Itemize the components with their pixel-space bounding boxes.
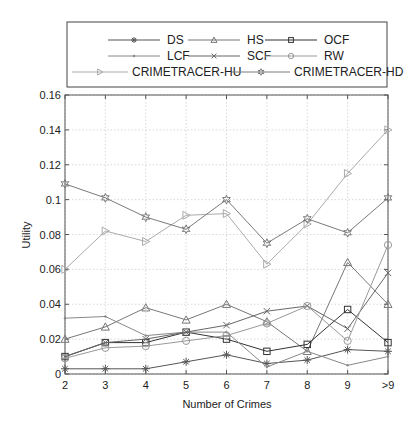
y-tick-label: 0.16	[40, 89, 61, 101]
legend-label: RW	[324, 49, 344, 63]
legend-label: HS	[247, 33, 264, 47]
x-tick-label: 2	[62, 379, 68, 391]
x-tick-label: 5	[183, 379, 189, 391]
chart-legend: DSHSOCFLCFSCFRWCRIMETRACER-HUCRIMETRACER…	[67, 22, 404, 87]
axes: 00.020.040.060.080.10.120.140.1623456789…	[40, 89, 395, 391]
y-tick-label: 0.04	[40, 298, 61, 310]
y-tick-label: 0.14	[40, 124, 61, 136]
legend-label: LCF	[167, 49, 190, 63]
x-tick-label: 7	[264, 379, 270, 391]
x-tick-label: 8	[304, 379, 310, 391]
x-tick-label: 4	[143, 379, 149, 391]
x-tick-label: 6	[223, 379, 229, 391]
x-tick-label: 3	[102, 379, 108, 391]
utility-line-chart: DSHSOCFLCFSCFRWCRIMETRACER-HUCRIMETRACER…	[0, 0, 413, 425]
y-tick-label: 0.12	[40, 159, 61, 171]
y-tick-label: 0	[55, 368, 61, 380]
legend-label: CRIMETRACER-HD	[294, 65, 404, 79]
legend-label: CRIMETRACER-HU	[132, 65, 241, 79]
y-tick-label: 0.02	[40, 333, 61, 345]
y-tick-label: 0.06	[40, 263, 61, 275]
x-axis-label: Number of Crimes	[182, 398, 272, 410]
legend-label: DS	[167, 33, 184, 47]
y-axis-label: Utility	[20, 221, 32, 248]
x-tick-label: 9	[345, 379, 351, 391]
y-tick-label: 0.1	[46, 194, 61, 206]
y-tick-label: 0.08	[40, 229, 61, 241]
legend-label: OCF	[324, 33, 349, 47]
x-tick-label: >9	[382, 379, 395, 391]
